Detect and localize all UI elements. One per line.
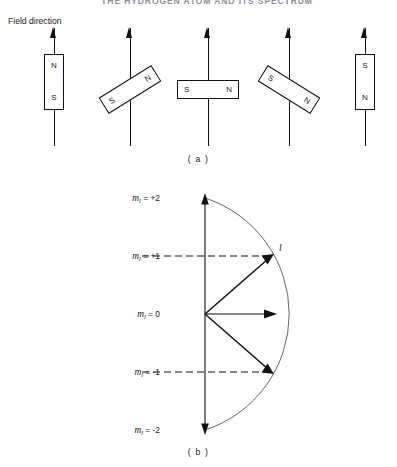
magnet-tilt-down-group: S N (249, 28, 329, 146)
ml-value: = +1 (143, 251, 160, 261)
magnet-pole-north: N (362, 94, 368, 102)
magnet-pole-north: N (51, 62, 57, 70)
magnet-pole-south: S (51, 94, 56, 102)
magnet-perpendicular-group: S N (168, 28, 248, 146)
magnet-tilt-up-group: S N (90, 28, 170, 146)
magnet-aligned-group: N S (14, 28, 94, 146)
ml-symbol: m (137, 309, 144, 319)
magnet-pole-north: N (302, 96, 311, 106)
panel-b-caption: ( b ) (0, 447, 397, 457)
ml-value: = 0 (148, 309, 160, 319)
magnet-antialigned: S N (355, 54, 375, 110)
magnet-perpendicular: S N (177, 80, 239, 99)
ml-subscript: l (141, 371, 143, 378)
ml-subscript: l (139, 255, 141, 262)
magnet-antialigned-group: S N (325, 28, 397, 146)
vector-ml-minus-1 (205, 314, 268, 369)
running-header: THE HYDROGEN ATOM AND ITS SPECTRUM (62, 0, 352, 5)
magnet-aligned: N S (44, 54, 64, 110)
ml-subscript: l (139, 197, 141, 204)
magnet-pole-north: N (143, 73, 152, 83)
magnet-pole-south: S (267, 73, 276, 83)
figure-page: THE HYDROGEN ATOM AND ITS SPECTRUM Field… (0, 0, 397, 467)
angular-momentum-vector-diagram (0, 185, 397, 443)
magnet-pole-south: S (184, 86, 189, 94)
vector-ml-zero-arrowhead-icon (264, 310, 277, 319)
panel-a: N S S N S N S N (0, 28, 397, 153)
ml-value: = +2 (143, 193, 160, 203)
field-direction-label: Field direction (8, 16, 62, 26)
ml-value: = -2 (145, 425, 160, 435)
ml-label-plus-1: ml = +1 (72, 251, 160, 262)
vector-ml-plus-1 (205, 259, 268, 314)
magnet-pole-south: S (362, 62, 367, 70)
panel-b: ml = +2 ml = +1 ml = 0 ml = -1 ml = -2 l (0, 185, 397, 443)
magnet-pole-south: S (108, 96, 117, 106)
ml-value: = -1 (145, 367, 160, 377)
ml-label-minus-2: ml = -2 (72, 425, 160, 436)
magnet-pole-north: N (226, 86, 232, 94)
ml-label-minus-1: ml = -1 (72, 367, 160, 378)
panel-a-caption: ( a ) (0, 154, 397, 164)
ml-subscript: l (141, 429, 143, 436)
vector-tip-label-l: l (279, 243, 282, 253)
ml-subscript: l (144, 313, 146, 320)
ml-label-plus-2: ml = +2 (72, 193, 160, 204)
ml-label-zero: ml = 0 (72, 309, 160, 320)
